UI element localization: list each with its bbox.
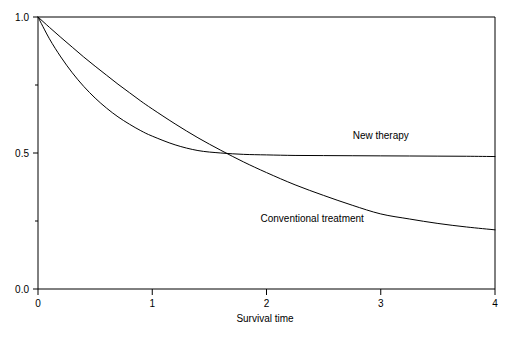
x-tick-label: 4 — [492, 298, 498, 309]
y-tick-label: 0.0 — [15, 284, 29, 295]
chart-canvas: 1.00.50.0 01234 New therapy Conventional… — [0, 0, 528, 337]
x-tick-label: 1 — [149, 298, 155, 309]
x-tick-label: 0 — [35, 298, 41, 309]
x-tick-label: 3 — [378, 298, 384, 309]
y-tick-label: 1.0 — [15, 12, 29, 23]
x-axis-title: Survival time — [236, 313, 294, 324]
annotation-conventional-treatment: Conventional treatment — [260, 213, 364, 224]
survival-curves-figure: 1.00.50.0 01234 New therapy Conventional… — [0, 0, 528, 337]
annotation-new-therapy: New therapy — [353, 130, 409, 141]
figure-background — [0, 0, 528, 337]
x-tick-label: 2 — [264, 298, 270, 309]
y-tick-label: 0.5 — [15, 148, 29, 159]
